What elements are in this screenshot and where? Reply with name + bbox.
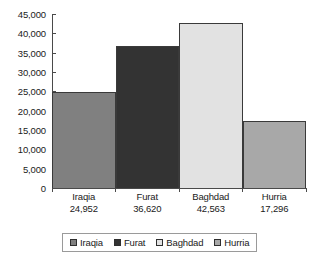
x-label-baghdad: Baghdad 42,563: [179, 191, 243, 215]
y-tick-label: 10,000: [18, 144, 52, 155]
chart-legend: Iraqia Furat Baghdad Hurria: [62, 233, 257, 252]
x-axis-labels: Iraqia 24,952 Furat 36,620 Baghdad 42,56…: [52, 191, 306, 215]
plot-area: [52, 14, 306, 188]
x-label-name: Baghdad: [179, 191, 243, 203]
x-tick-mark: [306, 188, 307, 192]
bar-chart: 45,000 40,000 35,000 30,000 25,000 20,00…: [0, 0, 323, 265]
x-label-iraqia: Iraqia 24,952: [52, 191, 116, 215]
x-label-hurria: Hurria 17,296: [243, 191, 307, 215]
legend-item-hurria[interactable]: Hurria: [214, 237, 249, 248]
y-tick-label: 35,000: [18, 47, 52, 58]
y-tick-label: 45,000: [18, 9, 52, 20]
legend-item-baghdad[interactable]: Baghdad: [156, 237, 203, 248]
x-label-name: Furat: [116, 191, 180, 203]
legend-label: Furat: [124, 237, 145, 248]
bar-iraqia[interactable]: [52, 92, 116, 188]
bar-furat[interactable]: [116, 46, 180, 188]
legend-swatch-icon: [156, 239, 163, 246]
legend-item-furat[interactable]: Furat: [114, 237, 145, 248]
bar-cell-furat: [116, 14, 180, 188]
legend-swatch-icon: [214, 239, 221, 246]
legend-swatch-icon: [114, 239, 121, 246]
legend-swatch-icon: [70, 239, 77, 246]
y-tick-label: 5,000: [23, 163, 52, 174]
y-tick-label: 20,000: [18, 105, 52, 116]
legend-label: Hurria: [224, 237, 249, 248]
bar-cell-iraqia: [52, 14, 116, 188]
y-axis: 45,000 40,000 35,000 30,000 25,000 20,00…: [0, 0, 52, 265]
x-label-value: 36,620: [116, 203, 180, 215]
bar-cell-baghdad: [179, 14, 243, 188]
bar-hurria[interactable]: [243, 121, 307, 188]
bar-baghdad[interactable]: [179, 23, 243, 188]
legend-label: Baghdad: [166, 237, 203, 248]
y-tick-label: 25,000: [18, 86, 52, 97]
x-label-name: Iraqia: [52, 191, 116, 203]
x-label-value: 42,563: [179, 203, 243, 215]
x-label-value: 17,296: [243, 203, 307, 215]
y-tick-label: 15,000: [18, 125, 52, 136]
x-label-furat: Furat 36,620: [116, 191, 180, 215]
x-label-value: 24,952: [52, 203, 116, 215]
legend-label: Iraqia: [80, 237, 103, 248]
y-tick-label: 40,000: [18, 28, 52, 39]
bars-row: [52, 14, 306, 188]
y-tick-label: 30,000: [18, 67, 52, 78]
x-label-name: Hurria: [243, 191, 307, 203]
legend-item-iraqia[interactable]: Iraqia: [70, 237, 103, 248]
bar-cell-hurria: [243, 14, 307, 188]
y-tick-label: 0: [41, 183, 52, 194]
